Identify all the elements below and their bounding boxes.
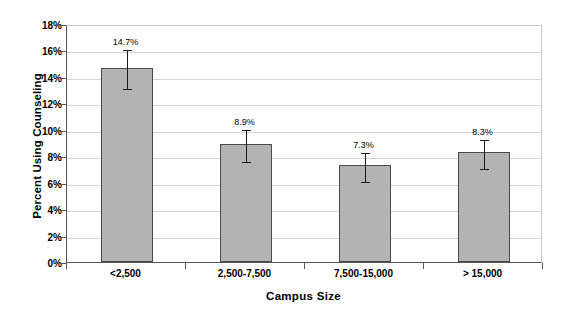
- y-tick-label: 12%: [16, 99, 62, 110]
- error-bar-stem: [484, 140, 485, 169]
- y-tick-label: 4%: [16, 205, 62, 216]
- x-tick-mark: [66, 263, 67, 269]
- error-bar-stem: [127, 50, 128, 90]
- y-tick-mark: [60, 157, 66, 158]
- error-bar-cap-lower: [123, 89, 132, 90]
- bar-data-label: 7.3%: [353, 140, 374, 150]
- error-bar-cap-lower: [242, 162, 251, 163]
- y-tick-mark: [60, 184, 66, 185]
- x-axis-title: Campus Size: [65, 290, 542, 302]
- bar-data-label: 8.9%: [234, 117, 255, 127]
- y-tick-label: 14%: [16, 72, 62, 83]
- x-category-label: 7,500-15,000: [334, 268, 393, 279]
- error-bar-stem: [246, 130, 247, 162]
- y-tick-label: 16%: [16, 46, 62, 57]
- error-bar-cap-lower: [361, 182, 370, 183]
- error-bar-cap-lower: [480, 169, 489, 170]
- x-tick-mark: [542, 263, 543, 269]
- bar: [101, 68, 153, 262]
- error-bar-cap-upper: [242, 130, 251, 131]
- y-tick-mark: [60, 25, 66, 26]
- error-bar-stem: [365, 153, 366, 182]
- gridline: [67, 52, 541, 53]
- x-category-label: 2,500-7,500: [218, 268, 271, 279]
- y-tick-mark: [60, 104, 66, 105]
- y-tick-label: 6%: [16, 178, 62, 189]
- x-category-label: <2,500: [110, 268, 141, 279]
- y-tick-mark: [60, 78, 66, 79]
- y-tick-mark: [60, 131, 66, 132]
- y-axis-title: Percent Using Counseling: [31, 26, 43, 266]
- bar-chart: Percent Using Counseling 0%2%4%6%8%10%12…: [0, 0, 562, 314]
- error-bar-cap-upper: [361, 153, 370, 154]
- x-tick-mark: [304, 263, 305, 269]
- bar-data-label: 14.7%: [113, 37, 139, 47]
- bar-data-label: 8.3%: [472, 127, 493, 137]
- x-category-label: > 15,000: [463, 268, 502, 279]
- x-tick-mark: [423, 263, 424, 269]
- error-bar-cap-upper: [480, 140, 489, 141]
- y-tick-mark: [60, 51, 66, 52]
- plot-area: [66, 25, 542, 263]
- y-tick-label: 8%: [16, 152, 62, 163]
- y-tick-mark: [60, 210, 66, 211]
- y-tick-label: 10%: [16, 125, 62, 136]
- y-tick-mark: [60, 237, 66, 238]
- y-tick-label: 18%: [16, 20, 62, 31]
- y-tick-label: 2%: [16, 231, 62, 242]
- x-tick-mark: [185, 263, 186, 269]
- y-tick-label: 0%: [16, 258, 62, 269]
- error-bar-cap-upper: [123, 50, 132, 51]
